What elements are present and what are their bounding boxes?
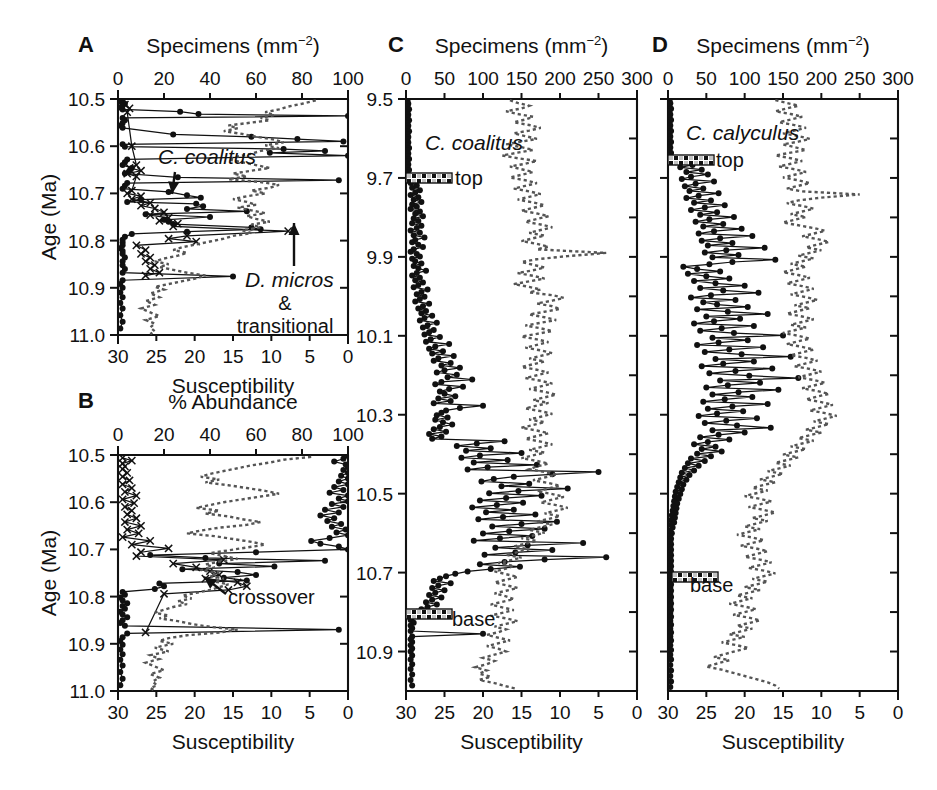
range-marker-base-hatch: [678, 573, 682, 577]
panel-C-series-0-point: [434, 370, 440, 376]
panel-C-series-0-point: [519, 450, 525, 456]
panel-B-series-0-point: [336, 495, 342, 501]
range-marker-top-hatch: [407, 179, 411, 183]
panel-B-series-0-point: [345, 532, 351, 538]
panel-C-series-0-point: [417, 317, 423, 323]
panel-A-series-0-point: [196, 111, 202, 117]
panel-C-series-0-point: [420, 325, 426, 331]
panel-B-bottom-tick-label: 20: [184, 702, 205, 723]
panel-C-series-0-point: [431, 426, 437, 432]
panel-C-top-tick-label: 300: [621, 68, 653, 89]
range-marker-top-hatch: [679, 161, 683, 165]
panel-C-series-0-point: [434, 320, 440, 326]
panel-B-series-0-point: [122, 623, 128, 629]
panel-D-series-0-point: [700, 299, 706, 305]
range-marker-top-hatch: [437, 174, 441, 178]
panel-A-bottom-tick-label: 10: [261, 346, 282, 367]
panel-B-series-0-point: [345, 481, 351, 487]
panel-B-series-0-point: [336, 478, 342, 484]
panel-D-series-0-point: [682, 183, 688, 189]
range-marker-base-hatch: [427, 610, 431, 614]
panel-C-series-1-line: [475, 100, 606, 689]
panel-A-series-0-point: [120, 306, 126, 312]
panel-D-series-0-point: [694, 342, 700, 348]
range-marker-base-hatch: [412, 610, 416, 614]
panel-D-series-0-point: [725, 309, 731, 315]
panel-A-series-0-point: [120, 125, 126, 131]
panel-B-series-0-point: [117, 669, 123, 675]
panel-C-series-0-point: [448, 580, 454, 586]
panel-C-series-0-point: [539, 493, 545, 499]
panel-D-marker-label-base: base: [690, 574, 733, 596]
panel-A-top-tick-label: 20: [153, 68, 174, 89]
panel-D-series-0-point: [697, 212, 703, 218]
panel-D-top-tick-label: 250: [844, 68, 876, 89]
panel-B-series-0-point: [324, 518, 330, 524]
panel-D-series-0-point: [716, 432, 722, 438]
panel-B-series-0-point: [244, 578, 250, 584]
panel-C-series-0-point: [526, 481, 532, 487]
range-marker-base-hatch: [447, 610, 451, 614]
panel-B-annotation-crossover: crossover: [228, 586, 315, 608]
panel-B-y-tick-label: 10.8: [68, 587, 105, 608]
panel-B-series-0-point: [345, 493, 351, 499]
panel-C-series-0-point: [435, 396, 441, 402]
panel-D-series-0-point: [699, 446, 705, 452]
panel-D-series-0-point: [711, 228, 717, 234]
panel-C-bottom-tick-label: 0: [632, 702, 643, 723]
range-marker-top-hatch: [699, 161, 703, 165]
range-marker-top-hatch: [674, 161, 678, 165]
panel-D-series-0-point: [693, 219, 699, 225]
panel-B-top-tick-label: 80: [291, 424, 312, 445]
panel-C-series-0-point: [432, 343, 438, 349]
panel-D-series-0-point: [683, 195, 689, 201]
panel-D-series-0-point: [697, 434, 703, 440]
range-marker-top-hatch: [432, 174, 436, 178]
panel-C-series-0-point: [421, 332, 427, 338]
panel-C-y-tick-label: 9.5: [367, 89, 393, 110]
panel-C-series-0-point: [465, 568, 471, 574]
panel-D-series-0-point: [716, 190, 722, 196]
panel-D-series-0-point: [702, 205, 708, 211]
panel-D-top-tick-label: 0: [663, 68, 674, 89]
panel-C-bottom-tick-label: 25: [434, 702, 455, 723]
panel-B-series-0-point: [340, 487, 346, 493]
panel-C-series-0-point: [446, 341, 452, 347]
figure-root: 02040608010030252015105010.510.610.710.8…: [0, 0, 937, 790]
panel-D-series-0-point: [668, 667, 674, 673]
range-marker-top-hatch: [412, 174, 416, 178]
panel-B-series-0-point: [331, 515, 337, 521]
panel-C-series-0-point: [452, 571, 458, 577]
panel-B-series-0-point: [117, 682, 123, 688]
panel-A-series-0-point: [281, 146, 287, 152]
panel-C-series-0-point: [483, 509, 489, 515]
panel-D-series-0-point: [755, 290, 761, 296]
range-marker-top-hatch: [704, 161, 708, 165]
range-marker-top-hatch: [669, 161, 673, 165]
panel-D-series-0-point: [714, 302, 720, 308]
panel-A-series-0-point: [294, 136, 300, 142]
panel-A-series-0-point: [129, 231, 135, 237]
panel-letter-A: A: [78, 32, 94, 57]
range-marker-base-hatch: [678, 578, 682, 582]
panel-C-series-0-point: [471, 459, 477, 465]
panel-C-series-0-point: [423, 339, 429, 345]
panel-D-series-0-point: [709, 254, 715, 260]
panel-D-bottom-tick-label: 0: [893, 702, 904, 723]
panel-A-bottom-tick-label: 15: [222, 346, 243, 367]
panel-C-series-0-point: [549, 547, 555, 553]
panel-C-series-0-point: [491, 476, 497, 482]
panel-C-y-tick-label: 10.5: [356, 484, 393, 505]
panel-D-bottom-axis-title: Susceptibility: [722, 730, 845, 753]
panel-C-series-0-point: [454, 372, 460, 378]
panel-A-series-0-point: [177, 109, 183, 115]
panel-D-series-0-point: [703, 273, 709, 279]
panel-C-series-0-point: [417, 230, 423, 236]
panel-D-series-0-point: [691, 278, 697, 284]
panel-B-series-0-point: [152, 586, 158, 592]
range-marker-top-hatch: [417, 174, 421, 178]
panel-D-top-tick-label: 100: [729, 68, 761, 89]
panel-B-series-0-point: [340, 456, 346, 462]
panel-D-series-0-point: [702, 250, 708, 256]
panel-C-series-0-point: [442, 587, 448, 593]
